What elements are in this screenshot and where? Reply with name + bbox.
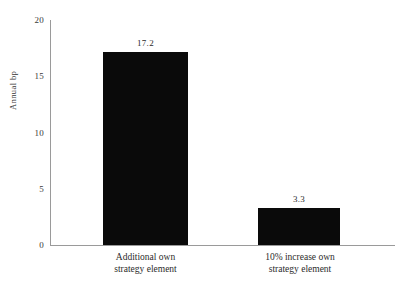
y-tick-label-0: 0 bbox=[0, 241, 44, 250]
y-tick-label-15: 15 bbox=[0, 72, 44, 81]
x-category-label-line2: strategy element bbox=[73, 263, 218, 275]
bar-additional-own-strategy-element bbox=[103, 52, 188, 246]
x-category-label-additional-own-strategy-element: Additional own strategy element bbox=[73, 251, 218, 275]
bar-chart: Annual bp 20 15 10 5 0 17.2 3.3 Addition… bbox=[0, 0, 410, 285]
bar-value-label-additional-own-strategy-element: 17.2 bbox=[103, 39, 188, 48]
y-tick-label-20: 20 bbox=[0, 16, 44, 25]
x-category-label-10-percent-increase-own-strategy-element: 10% increase own strategy element bbox=[225, 251, 375, 275]
x-category-label-line2: strategy element bbox=[225, 263, 375, 275]
y-axis-tick-labels: 20 15 10 5 0 bbox=[0, 0, 44, 285]
x-category-label-line1: 10% increase own bbox=[265, 252, 335, 262]
plot-area: 17.2 3.3 bbox=[51, 20, 395, 245]
bar-value-label-10-percent-increase-own-strategy-element: 3.3 bbox=[258, 195, 340, 204]
y-tick-label-10: 10 bbox=[0, 129, 44, 138]
x-axis-line bbox=[50, 245, 395, 246]
y-tick-label-5: 5 bbox=[0, 185, 44, 194]
x-category-label-line1: Additional own bbox=[116, 252, 175, 262]
bar-group-additional-own-strategy-element: 17.2 bbox=[103, 20, 188, 245]
bar-group-10-percent-increase-own-strategy-element: 3.3 bbox=[258, 20, 340, 245]
bar-10-percent-increase-own-strategy-element bbox=[258, 208, 340, 245]
